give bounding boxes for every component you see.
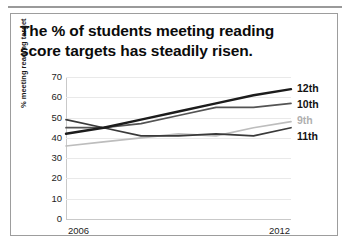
series-line-10th bbox=[66, 103, 291, 127]
legend-label-11th[interactable]: 11th bbox=[297, 130, 318, 142]
legend-label-10th[interactable]: 10th bbox=[297, 98, 319, 110]
chart-plot-area: % meeting reading target 010203040506070… bbox=[0, 0, 350, 250]
legend-label-12th[interactable]: 12th bbox=[297, 82, 319, 94]
chart-page: The % of students meeting reading score … bbox=[0, 0, 350, 250]
legend-label-9th[interactable]: 9th bbox=[297, 114, 313, 126]
series-line-9th bbox=[66, 122, 291, 146]
